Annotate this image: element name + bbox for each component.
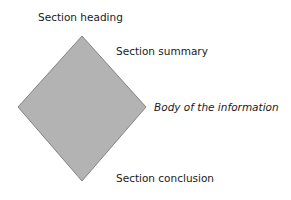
section-heading-label: Section heading [38, 11, 123, 23]
section-summary-label: Section summary [116, 45, 208, 57]
diamond-shape [0, 0, 291, 200]
section-conclusion-label: Section conclusion [116, 172, 214, 184]
body-information-label: Body of the information [154, 101, 279, 113]
diamond-structure-diagram: Section heading Section summary Body of … [0, 0, 291, 200]
